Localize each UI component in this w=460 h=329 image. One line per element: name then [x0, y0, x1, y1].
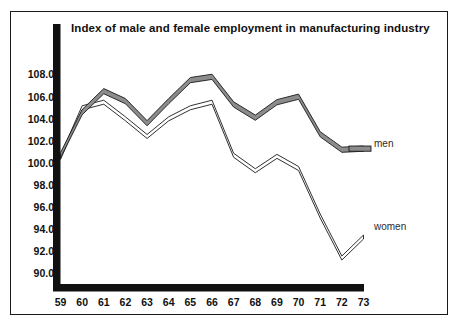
y-axis-line — [53, 24, 61, 290]
chart-figure: Index of male and female employment in m… — [0, 0, 460, 329]
series-band-women — [61, 100, 364, 260]
legend-swatch-men — [349, 146, 371, 151]
series-label-women: women — [374, 221, 406, 232]
x-axis-line — [53, 284, 364, 292]
series-band-men — [61, 74, 364, 158]
series-label-men: men — [374, 138, 393, 149]
chart-plot-area — [0, 0, 460, 329]
